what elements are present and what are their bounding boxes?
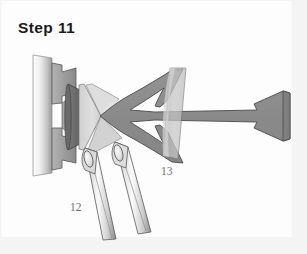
mounting-plate [33, 55, 52, 176]
page-title: Step 11 [18, 19, 75, 37]
technical-illustration-canvas [0, 0, 307, 254]
right-bell-flare [283, 91, 290, 141]
callout-label-13: 13 [161, 165, 173, 177]
figure-container: Step 11 12 13 [0, 0, 307, 254]
callout-label-12: 12 [70, 201, 82, 213]
